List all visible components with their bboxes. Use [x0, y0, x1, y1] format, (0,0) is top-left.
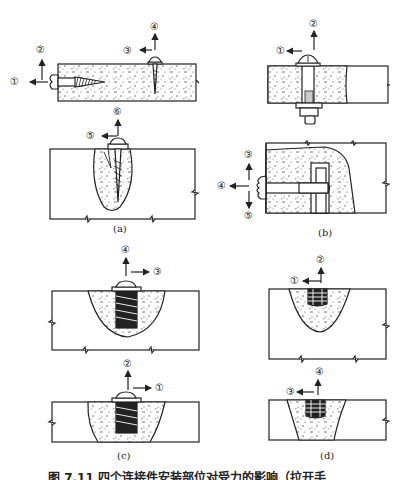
panel-label-d: (d) [320, 450, 334, 461]
marker-d2: ② [316, 255, 325, 265]
figure-caption: 图 7.11 四个连接件安装部位对受力的影响（拉开手 [48, 468, 326, 480]
panel-a [30, 34, 199, 222]
marker-c2: ② [123, 359, 132, 369]
marker-b2: ② [309, 19, 318, 29]
marker-b1: ① [276, 46, 285, 56]
marker-b4: ④ [217, 181, 226, 191]
marker-a6: ⑥ [113, 107, 122, 117]
diagram-canvas [0, 0, 411, 480]
panel-label-a: (a) [113, 223, 127, 234]
marker-a1: ① [10, 77, 19, 87]
marker-a4: ④ [150, 22, 159, 32]
marker-b3: ③ [244, 150, 253, 160]
marker-d4: ④ [315, 367, 324, 377]
panel-c [49, 258, 199, 442]
marker-d3: ③ [286, 387, 295, 397]
marker-d1: ① [290, 276, 299, 286]
marker-c3: ③ [153, 267, 162, 277]
marker-a5: ⑤ [86, 131, 95, 141]
panel-label-b: (b) [318, 227, 332, 238]
marker-b5: ⑤ [244, 211, 253, 221]
panel-d [269, 268, 389, 440]
marker-c1: ① [155, 383, 164, 393]
marker-a2: ② [36, 45, 45, 55]
marker-c4: ④ [121, 245, 130, 255]
panel-b [230, 31, 390, 213]
marker-a3: ③ [123, 46, 132, 56]
panel-label-c: (c) [117, 450, 130, 461]
